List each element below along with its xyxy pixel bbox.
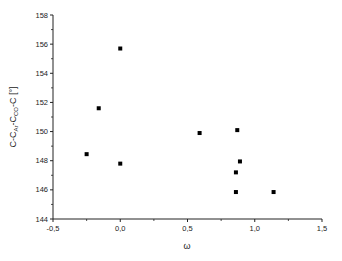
- x-tick-label: 0,0: [115, 224, 125, 233]
- x-tick-label: 1,5: [317, 224, 327, 233]
- data-point-marker: [272, 190, 276, 194]
- data-point-marker: [85, 152, 89, 156]
- y-tick-label: 152: [35, 98, 48, 107]
- x-tick-label: -0,5: [47, 224, 60, 233]
- axes: -0,50,00,51,01,5144146148150152154156158: [35, 11, 327, 233]
- y-tick-label: 158: [35, 11, 48, 20]
- y-axis-title: C-CAr-CCO-C [°]: [8, 86, 19, 147]
- y-tick-label: 144: [35, 215, 48, 224]
- data-point-marker: [118, 162, 122, 166]
- y-tick-label: 148: [35, 156, 48, 165]
- data-point-marker: [97, 106, 101, 110]
- data-point-marker: [118, 47, 122, 51]
- data-point-marker: [234, 190, 238, 194]
- data-point-marker: [235, 128, 239, 132]
- y-tick-label: 154: [35, 69, 48, 78]
- y-tick-label: 150: [35, 127, 48, 136]
- scatter-chart: -0,50,00,51,01,5144146148150152154156158…: [0, 0, 342, 261]
- y-tick-label: 156: [35, 40, 48, 49]
- data-point-marker: [238, 159, 242, 163]
- data-point-marker: [234, 170, 238, 174]
- y-tick-label: 146: [35, 185, 48, 194]
- x-tick-label: 1,0: [250, 224, 260, 233]
- data-point-marker: [198, 131, 202, 135]
- data-points: [85, 47, 276, 195]
- x-axis-title: ω: [183, 241, 190, 251]
- x-tick-label: 0,5: [182, 224, 192, 233]
